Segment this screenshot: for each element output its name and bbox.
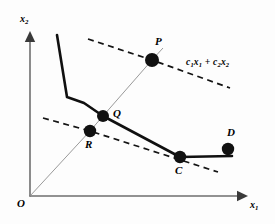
origin-ray-line xyxy=(30,48,163,196)
y-axis-arrowhead xyxy=(25,31,35,42)
isocost-line-lower xyxy=(43,118,218,172)
point-label-p: P xyxy=(155,36,162,47)
x-axis-arrowhead xyxy=(237,191,248,201)
objective-function-label: c1x1 + c2x2 xyxy=(186,58,229,68)
point-label-d: D xyxy=(227,127,235,138)
data-point-c xyxy=(174,151,186,163)
data-point-p xyxy=(145,53,159,67)
point-label-q: Q xyxy=(113,108,121,119)
point-label-c: C xyxy=(175,165,182,176)
x-axis-label: x1 xyxy=(250,200,258,210)
origin-label: O xyxy=(17,198,25,209)
data-point-r xyxy=(84,125,96,137)
point-label-r: R xyxy=(85,139,92,150)
lp-diagram-svg xyxy=(0,0,275,224)
figure-container: PQRCD x2 x1 O c1x1 + c2x2 xyxy=(0,0,275,224)
data-point-d xyxy=(222,143,234,155)
y-axis-label: x2 xyxy=(20,14,28,24)
data-point-q xyxy=(97,110,109,122)
